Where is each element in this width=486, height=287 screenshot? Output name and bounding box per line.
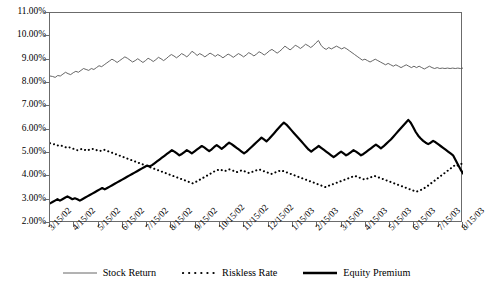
dotted-line-swatch bbox=[182, 268, 216, 278]
legend-item-equity-premium: Equity Premium bbox=[303, 268, 410, 278]
series-line-equity-premium bbox=[50, 120, 463, 204]
legend-label-equity-premium: Equity Premium bbox=[343, 268, 410, 278]
legend-label-stock-return: Stock Return bbox=[103, 268, 156, 278]
legend-item-riskless-rate: Riskless Rate bbox=[182, 268, 277, 278]
thin-line-swatch bbox=[63, 268, 97, 278]
y-axis-tick-label: 2.00% bbox=[0, 217, 46, 226]
y-axis-tick-label: 10.00% bbox=[0, 30, 46, 39]
y-axis-tick-label: 8.00% bbox=[0, 77, 46, 86]
chart-legend: Stock Return Riskless Rate Equity Premiu… bbox=[0, 263, 473, 283]
legend-item-stock-return: Stock Return bbox=[63, 268, 156, 278]
series-line-stock-return bbox=[50, 41, 463, 78]
y-axis-tick-label: 7.00% bbox=[0, 100, 46, 109]
y-axis-tick-label: 5.00% bbox=[0, 147, 46, 156]
plot-lines bbox=[50, 13, 463, 223]
y-axis-tick-label: 3.00% bbox=[0, 194, 46, 203]
y-axis-tick-label: 11.00% bbox=[0, 7, 46, 16]
y-axis-tick-label: 9.00% bbox=[0, 54, 46, 63]
legend-label-riskless-rate: Riskless Rate bbox=[222, 268, 277, 278]
y-axis-tick-label: 4.00% bbox=[0, 170, 46, 179]
thick-line-swatch bbox=[303, 268, 337, 278]
plot-area bbox=[49, 12, 462, 222]
y-axis-tick-label: 6.00% bbox=[0, 124, 46, 133]
